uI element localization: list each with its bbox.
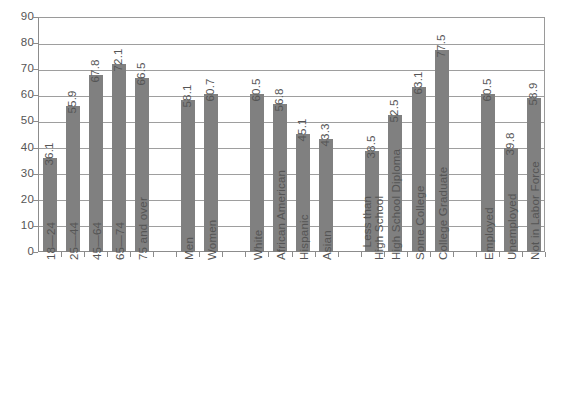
bar-value-label: 45.1	[296, 119, 308, 142]
y-axis-tick-label: 0	[0, 246, 34, 258]
y-axis-tick-label: 70	[0, 63, 34, 75]
x-axis-tick-label: Men	[183, 237, 195, 260]
bar-value-label: 63.1	[412, 72, 424, 95]
x-axis-tick-label: Not in Labor Force	[529, 161, 541, 260]
bar-value-label: 58.1	[181, 85, 193, 108]
y-axis-tick-label: 90	[0, 11, 34, 23]
x-axis-tick-label: Unemployed	[506, 193, 518, 260]
bar-value-label: 67.8	[89, 59, 101, 82]
x-axis-tick-label: Less thanHigh School	[361, 196, 385, 260]
y-axis-tick	[33, 43, 38, 44]
bar-value-label: 60.5	[481, 78, 493, 101]
x-axis-tick	[430, 252, 431, 257]
y-axis-tick-label: 30	[0, 168, 34, 180]
x-axis-tick-label: Women	[206, 220, 218, 260]
bar-value-label: 60.5	[250, 78, 262, 101]
bar-value-label: 66.5	[135, 63, 147, 86]
x-axis-tick-label: White	[252, 230, 264, 260]
bar-value-label: 72.1	[112, 48, 124, 71]
x-axis-tick	[499, 252, 500, 257]
y-axis-tick	[33, 200, 38, 201]
y-axis-tick	[33, 226, 38, 227]
y-axis-tick	[33, 121, 38, 122]
x-axis-tick	[453, 252, 454, 257]
y-axis-tick	[33, 17, 38, 18]
x-axis-tick-label: College Graduate	[437, 167, 449, 260]
x-axis-tick	[268, 252, 269, 257]
x-axis-tick	[199, 252, 200, 257]
x-axis-tick-label: African American	[275, 170, 287, 260]
x-axis-tick	[245, 252, 246, 257]
y-axis-tick-label: 80	[0, 37, 34, 49]
y-axis-tick	[33, 252, 38, 253]
x-axis-tick-label: Some College	[414, 185, 426, 260]
x-axis-tick	[222, 252, 223, 257]
x-axis-tick	[292, 252, 293, 257]
bar-value-label: 43.3	[319, 123, 331, 146]
x-axis-tick	[338, 252, 339, 257]
y-axis-tick-label: 20	[0, 194, 34, 206]
y-axis-tick	[33, 95, 38, 96]
bar-value-label: 39.8	[504, 132, 516, 155]
x-axis-tick-label: 65—74	[114, 222, 126, 260]
bar-value-label: 38.5	[365, 136, 377, 159]
x-axis-tick-label: 25—44	[68, 222, 80, 260]
x-axis-tick	[84, 252, 85, 257]
bar-value-label: 55.9	[66, 90, 78, 113]
x-axis-tick	[107, 252, 108, 257]
y-axis-tick	[33, 69, 38, 70]
bar-chart: 0102030405060708090 36.155.967.872.166.5…	[0, 0, 561, 394]
x-axis-tick-label-line: High School	[373, 196, 385, 260]
bar[interactable]	[250, 94, 264, 252]
y-axis: 0102030405060708090	[0, 0, 34, 394]
x-axis-tick	[384, 252, 385, 257]
bar-value-label: 77.5	[435, 34, 447, 57]
bar-value-label: 36.1	[43, 142, 55, 165]
bar-value-label: 60.7	[204, 78, 216, 101]
x-axis-tick-label: High School Diploma	[390, 149, 402, 260]
y-axis-tick	[33, 174, 38, 175]
x-axis-tick	[315, 252, 316, 257]
x-axis-tick	[361, 252, 362, 257]
y-axis-tick-label: 60	[0, 89, 34, 101]
bar-value-label: 58.9	[527, 83, 539, 106]
gridline	[39, 44, 544, 45]
x-axis-tick	[176, 252, 177, 257]
x-axis-tick	[522, 252, 523, 257]
x-axis-tick	[545, 252, 546, 257]
x-axis-tick-label: Employed	[483, 207, 495, 260]
x-axis-tick-label: Hispanic	[298, 214, 310, 260]
y-axis-tick	[33, 148, 38, 149]
x-axis-tick-label: Asian	[321, 230, 333, 260]
x-axis-tick	[61, 252, 62, 257]
x-axis-tick-label: 75 and over	[137, 197, 149, 260]
x-axis-tick	[153, 252, 154, 257]
x-axis-tick	[130, 252, 131, 257]
x-axis-tick-label: 45—64	[91, 222, 103, 260]
bar-value-label: 52.5	[388, 99, 400, 122]
x-axis-tick	[476, 252, 477, 257]
y-axis-tick-label: 50	[0, 115, 34, 127]
x-axis-tick-label: 18—24	[45, 222, 57, 260]
bar[interactable]	[181, 100, 195, 252]
bar-value-label: 56.8	[273, 88, 285, 111]
x-axis-tick	[407, 252, 408, 257]
x-axis-tick-label-line: Less than	[361, 196, 373, 260]
y-axis-tick-label: 10	[0, 220, 34, 232]
y-axis-tick-label: 40	[0, 142, 34, 154]
